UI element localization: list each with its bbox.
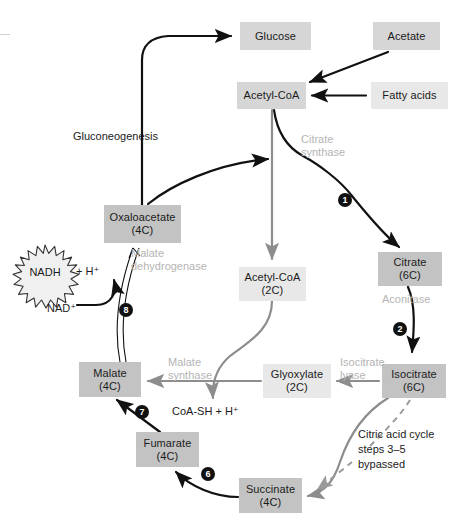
enzyme-line-2: lyase — [340, 369, 385, 382]
enzyme-line-1: Aconitase — [382, 293, 430, 306]
node-glyoxylate[interactable]: Glyoxylate (2C) — [263, 364, 331, 398]
enzyme-line-2: synthase — [168, 369, 212, 382]
enzyme-label-citrate-synthase: Citrate synthase — [301, 133, 345, 159]
node-malate[interactable]: Malate (4C) — [79, 362, 141, 397]
step-marker-1[interactable]: 1 — [338, 193, 352, 207]
node-label: Glyoxylate — [271, 368, 323, 381]
node-label: Acetyl-CoA — [244, 271, 300, 284]
enzyme-label-isocitrate-lyase: Isocitrate lyase — [340, 356, 385, 382]
node-acetate[interactable]: Acetate — [373, 22, 440, 50]
node-label: Malate — [93, 367, 127, 380]
label-gluconeogenesis: Gluconeogenesis — [73, 130, 158, 143]
enzyme-label-malate-synthase: Malate synthase — [168, 356, 212, 382]
node-label: Acetyl-CoA — [243, 89, 299, 102]
node-isocitrate[interactable]: Isocitrate (6C) — [382, 364, 446, 398]
node-succinate[interactable]: Succinate (4C) — [239, 478, 302, 513]
node-carbon-count: (2C) — [262, 284, 284, 297]
enzyme-line-2: synthase — [301, 146, 345, 159]
node-label: Glucose — [255, 30, 296, 43]
enzyme-line-1: Isocitrate — [340, 356, 385, 369]
node-carbon-count: (6C) — [399, 269, 421, 282]
node-label: Citrate — [393, 256, 426, 269]
label-nadh: NADH — [14, 247, 76, 297]
node-carbon-count: (4C) — [99, 380, 121, 393]
enzyme-line-1: Citrate — [301, 133, 345, 146]
node-label: Fatty acids — [382, 89, 436, 102]
enzyme-label-aconitase: Aconitase — [382, 293, 430, 306]
node-carbon-count: (4C) — [157, 450, 179, 463]
node-fatty-acids[interactable]: Fatty acids — [371, 82, 448, 109]
enzyme-line-2: dehydrogenase — [131, 260, 207, 273]
node-carbon-count: (6C) — [403, 381, 425, 394]
node-label: Oxaloacetate — [109, 211, 175, 224]
label-bypass-note: Citric acid cycle steps 3–5 bypassed — [358, 427, 458, 472]
bypass-line-1: Citric acid cycle — [358, 427, 458, 442]
node-label: Succinate — [246, 483, 295, 496]
label-nad-plus: NAD⁺ — [47, 302, 76, 315]
glyoxylate-cycle-diagram: Glucose Acetate Acetyl-CoA Fatty acids O… — [0, 0, 461, 530]
node-carbon-count: (2C) — [286, 381, 308, 394]
node-glucose[interactable]: Glucose — [240, 22, 311, 50]
node-carbon-count: (4C) — [260, 496, 282, 509]
node-label: Acetate — [387, 30, 425, 43]
node-label: Isocitrate — [391, 368, 437, 381]
enzyme-line-1: Malate — [131, 247, 207, 260]
label-plus-proton: + H⁺ — [76, 265, 99, 278]
node-oxaloacetate[interactable]: Oxaloacetate (4C) — [104, 205, 181, 243]
step-marker-6[interactable]: 6 — [201, 467, 215, 481]
bypass-line-3: bypassed — [358, 457, 458, 472]
enzyme-line-1: Malate — [168, 356, 212, 369]
node-citrate[interactable]: Citrate (6C) — [378, 252, 442, 286]
enzyme-label-malate-dehydrogenase: Malate dehydrogenase — [131, 247, 207, 273]
step-marker-7[interactable]: 7 — [135, 405, 149, 419]
bypass-line-2: steps 3–5 — [358, 442, 458, 457]
step-marker-8[interactable]: 8 — [119, 303, 133, 317]
label-coa-sh: CoA-SH + H⁺ — [172, 405, 239, 418]
node-label: Fumarate — [144, 437, 192, 450]
node-carbon-count: (4C) — [132, 224, 154, 237]
node-fumarate[interactable]: Fumarate (4C) — [136, 432, 199, 467]
node-acetyl-coa-top[interactable]: Acetyl-CoA — [237, 82, 306, 109]
step-marker-2[interactable]: 2 — [393, 322, 407, 336]
node-acetyl-coa-2c[interactable]: Acetyl-CoA (2C) — [239, 267, 306, 301]
nadh-burst-label: NADH — [14, 247, 76, 297]
